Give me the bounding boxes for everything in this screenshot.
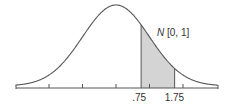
distribution-label: N [0, 1] xyxy=(157,27,189,38)
tick-label-1.75: 1.75 xyxy=(165,93,184,103)
tick-label-0.75: .75 xyxy=(132,93,146,103)
normal-curve xyxy=(16,5,218,85)
normal-curve-chart xyxy=(0,0,229,109)
